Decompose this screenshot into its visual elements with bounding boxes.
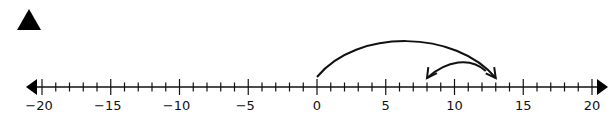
number-line-ticks (42, 79, 592, 95)
tick-label: 15 (515, 98, 532, 113)
jump-arc (427, 62, 486, 78)
jump-arcs (317, 41, 496, 78)
tick-label: 5 (382, 98, 390, 113)
triangle-marker-icon (17, 9, 41, 30)
tick-label: −10 (163, 98, 190, 113)
jump-arc (317, 41, 496, 78)
tick-label: −5 (236, 98, 255, 113)
tick-label: −15 (94, 98, 121, 113)
jump-right-13 (317, 41, 496, 78)
right-arrow-icon (597, 79, 608, 95)
number-line-diagram: −20−15−10−505101520 (0, 0, 614, 128)
tick-label: 0 (313, 98, 321, 113)
tick-label: −20 (25, 98, 52, 113)
tick-label: 10 (446, 98, 463, 113)
tick-label: 20 (584, 98, 601, 113)
number-line-labels: −20−15−10−505101520 (25, 98, 600, 113)
jump-left-5 (427, 62, 486, 78)
left-arrow-icon (26, 79, 37, 95)
